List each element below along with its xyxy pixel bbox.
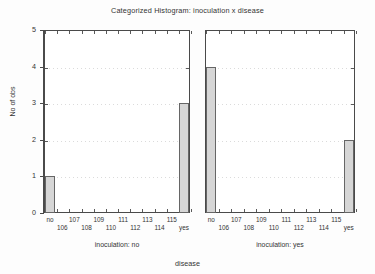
x-axis-title: disease: [0, 259, 375, 268]
x-tick-label: 113: [306, 217, 316, 223]
x-tick-mark: [94, 209, 95, 212]
y-tick-label: 1: [20, 172, 36, 179]
x-tick-mark: [57, 31, 58, 34]
panel-inoculation-no: [44, 30, 190, 213]
y-tick-label: 0: [20, 209, 36, 216]
y-tick-mark: [40, 67, 43, 68]
x-tick-mark: [69, 209, 70, 212]
x-tick-mark: [179, 31, 180, 34]
x-tick-mark: [231, 209, 232, 212]
x-tick-label: yes: [344, 225, 354, 231]
x-tick-mark: [281, 209, 282, 212]
grid-line: [206, 177, 354, 178]
x-tick-mark: [167, 31, 168, 34]
x-tick-label: 107: [69, 217, 80, 223]
x-tick-mark: [191, 31, 192, 34]
x-tick-mark: [94, 31, 95, 34]
y-tick-label: 3: [20, 99, 36, 106]
x-tick-label: 115: [167, 217, 177, 223]
histogram-bar: [179, 103, 189, 213]
y-minor-tick: [45, 141, 48, 142]
x-tick-mark: [69, 31, 70, 34]
histogram-bar: [45, 176, 55, 213]
x-tick-mark: [118, 31, 119, 34]
x-tick-mark: [206, 31, 207, 34]
x-tick-label: 110: [269, 225, 279, 231]
grid-line: [206, 104, 354, 105]
grid-line: [206, 141, 354, 142]
x-tick-mark: [106, 209, 107, 212]
y-minor-tick: [351, 68, 354, 69]
x-tick-mark: [344, 31, 345, 34]
y-minor-tick: [45, 68, 48, 69]
y-tick-label: 4: [20, 63, 36, 70]
x-tick-mark: [142, 31, 143, 34]
x-tick-mark: [82, 31, 83, 34]
x-tick-mark: [306, 209, 307, 212]
x-tick-mark: [244, 31, 245, 34]
x-tick-mark: [219, 209, 220, 212]
y-axis-label: No of obs: [9, 72, 16, 132]
y-tick-mark: [40, 140, 43, 141]
x-tick-mark: [142, 209, 143, 212]
x-tick-mark: [281, 31, 282, 34]
histogram-bar: [206, 67, 216, 213]
x-tick-mark: [191, 209, 192, 212]
panel-caption: inoculation: no: [95, 241, 139, 248]
x-tick-mark: [244, 209, 245, 212]
x-tick-label: 112: [294, 225, 304, 231]
x-tick-label: 110: [106, 225, 116, 231]
x-tick-label: yes: [179, 225, 189, 231]
y-minor-tick: [45, 104, 48, 105]
x-tick-label: 108: [243, 225, 254, 231]
x-tick-label: 111: [281, 217, 291, 223]
panel-inoculation-yes: [205, 30, 355, 213]
x-tick-mark: [306, 31, 307, 34]
grid-line: [45, 141, 189, 142]
x-tick-mark: [331, 31, 332, 34]
x-tick-label: 115: [331, 217, 341, 223]
x-tick-mark: [256, 209, 257, 212]
x-tick-mark: [269, 31, 270, 34]
y-minor-tick: [186, 68, 189, 69]
x-tick-mark: [219, 31, 220, 34]
x-tick-label: 113: [142, 217, 152, 223]
x-tick-label: 112: [130, 225, 140, 231]
x-tick-mark: [319, 209, 320, 212]
x-tick-label: 106: [57, 225, 68, 231]
chart-canvas: Categorized Histogram: inoculation x dis…: [0, 0, 375, 274]
x-tick-label: 114: [154, 225, 164, 231]
x-tick-mark: [130, 209, 131, 212]
x-tick-label: 106: [218, 225, 229, 231]
x-tick-mark: [57, 209, 58, 212]
x-tick-mark: [231, 31, 232, 34]
y-tick-label: 5: [20, 26, 36, 33]
x-tick-mark: [319, 31, 320, 34]
x-tick-mark: [356, 31, 357, 34]
x-tick-mark: [130, 31, 131, 34]
y-minor-tick: [351, 104, 354, 105]
y-tick-mark: [40, 213, 43, 214]
panel-caption: inoculation: yes: [256, 241, 304, 248]
x-tick-mark: [356, 209, 357, 212]
x-tick-label: 114: [319, 225, 329, 231]
x-tick-mark: [167, 209, 168, 212]
grid-line: [45, 68, 189, 69]
y-tick-mark: [40, 176, 43, 177]
y-tick-mark: [40, 103, 43, 104]
x-tick-label: no: [208, 217, 215, 223]
x-tick-mark: [155, 209, 156, 212]
x-tick-label: 109: [256, 217, 267, 223]
x-tick-mark: [269, 209, 270, 212]
x-tick-label: 111: [118, 217, 128, 223]
histogram-bar: [344, 140, 354, 213]
grid-line: [206, 68, 354, 69]
x-tick-mark: [82, 209, 83, 212]
x-tick-mark: [331, 209, 332, 212]
y-tick-label: 2: [20, 136, 36, 143]
x-tick-mark: [155, 31, 156, 34]
x-tick-label: 109: [93, 217, 104, 223]
x-tick-mark: [256, 31, 257, 34]
x-tick-label: 108: [81, 225, 92, 231]
grid-line: [45, 177, 189, 178]
